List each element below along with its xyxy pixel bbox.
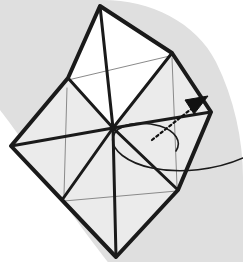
origami-figure: Origami fold step diagram xyxy=(0,0,243,262)
origami-diagram-canvas: Origami fold step diagram xyxy=(0,0,243,262)
